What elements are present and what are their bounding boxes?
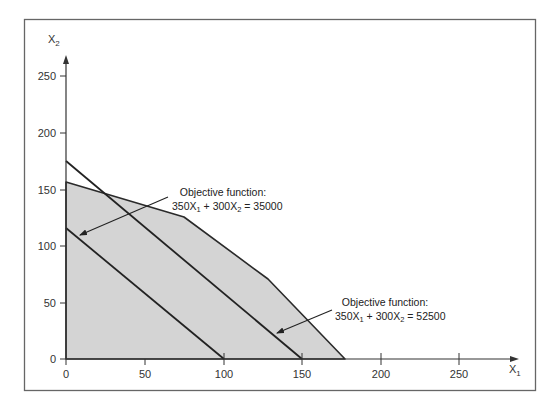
chart: 0 50 100 150 200 250 0 50 100 150 200 25… [0,0,556,408]
y-tick-label: 50 [44,297,56,309]
annotation-title: Objective function: [180,186,266,198]
x-tick-label: 50 [139,368,151,380]
y-tick-label: 150 [38,184,56,196]
y-tick-label: 250 [38,70,56,82]
x-tick-label: 200 [372,368,390,380]
annotation-title: Objective function: [342,296,428,308]
y-tick-label: 0 [50,353,56,365]
y-tick-label: 200 [38,127,56,139]
y-tick-label: 100 [38,240,56,252]
annotation-equation: 350X1 + 300X2 = 52500 [335,310,446,324]
annotation-equation: 350X1 + 300X2 = 35000 [172,200,283,214]
x-tick-label: 100 [215,368,233,380]
x-tick-label: 0 [63,368,69,380]
x-tick-label: 150 [293,368,311,380]
x-tick-label: 250 [450,368,468,380]
